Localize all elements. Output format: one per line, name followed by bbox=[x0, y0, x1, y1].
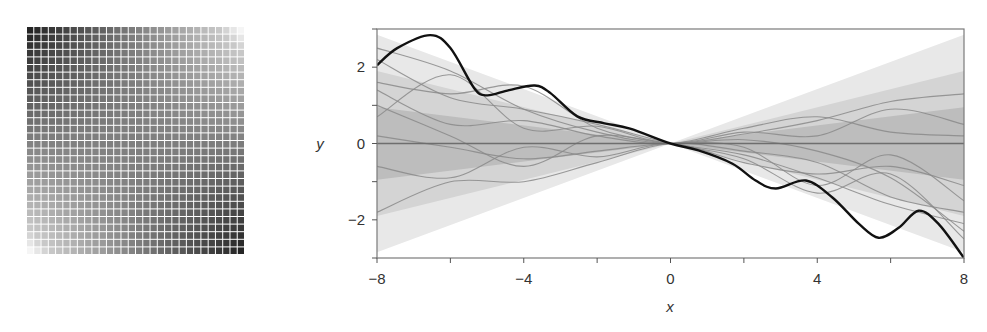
x-tick-label: 0 bbox=[666, 270, 674, 287]
x-tick-label: −4 bbox=[515, 270, 532, 287]
y-axis-ticks: −202 bbox=[348, 29, 377, 258]
x-axis-ticks: −8−4048 bbox=[368, 258, 968, 287]
y-axis-label: y bbox=[315, 135, 325, 152]
x-tick-label: 4 bbox=[813, 270, 821, 287]
x-axis-label: x bbox=[665, 298, 674, 315]
y-tick-label: −2 bbox=[348, 211, 365, 228]
x-tick-label: 8 bbox=[960, 270, 968, 287]
y-tick-label: 0 bbox=[357, 135, 365, 152]
y-tick-label: 2 bbox=[357, 58, 365, 75]
gp-samples-plot: −8−4048 −202 x y bbox=[0, 0, 987, 332]
x-tick-label: −8 bbox=[368, 270, 385, 287]
